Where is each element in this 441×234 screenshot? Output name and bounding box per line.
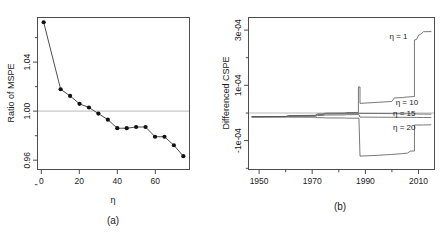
panel-b-annotation-1: η = 10 xyxy=(396,98,419,107)
panel-b-ytick-label-0: -1e-04 xyxy=(233,128,243,153)
panel-a-ytick-label-0: 0.96 xyxy=(22,152,32,169)
panel-a-data-point xyxy=(77,102,81,106)
panel-a-x-axis-label: η xyxy=(110,195,115,205)
panel-a-data-point xyxy=(143,125,147,129)
panel-b-series xyxy=(252,32,432,157)
panel-b-caption: (b) xyxy=(334,201,346,212)
panel-b-xtick-label-2: 1990 xyxy=(356,176,375,186)
panel-a-data-point xyxy=(172,143,176,147)
panel-a-data-point xyxy=(115,126,119,130)
panel-a-data-point xyxy=(134,125,138,129)
panel-b-annotation-0: η = 1 xyxy=(390,32,409,41)
panel-a-ytick-label-1: 1.00 xyxy=(22,103,32,120)
panel-a-data-point xyxy=(125,126,129,130)
panel-a-data-point xyxy=(42,20,46,24)
panel-b-plot: -1e-04 1e-04 3e-04 1950 1970 1990 2010 D… xyxy=(220,0,441,234)
panel-b-xtick-label-0: 1950 xyxy=(250,176,269,186)
panel-b-ytick-label-1: 1e-04 xyxy=(233,74,243,96)
panel-a-xtick-label-2: 40 xyxy=(113,176,123,186)
figure-container: 0.96 1.00 1.04 0 20 40 60 η Ratio of MSP… xyxy=(0,0,441,234)
panel-b: -1e-04 1e-04 3e-04 1950 1970 1990 2010 D… xyxy=(220,0,441,234)
panel-a-frame xyxy=(38,18,190,170)
panel-a-data-point xyxy=(96,111,100,115)
panel-a-data-point xyxy=(181,154,185,158)
panel-a-data-point xyxy=(68,94,72,98)
panel-b-y-ticks xyxy=(244,30,249,168)
panel-a-xtick-label-0: 0 xyxy=(39,176,44,186)
panel-a-ytick-label-2: 1.04 xyxy=(22,54,32,71)
panel-a-plot: 0.96 1.00 1.04 0 20 40 60 η Ratio of MSP… xyxy=(0,0,220,234)
panel-b-ytick-label-2: 3e-04 xyxy=(233,19,243,41)
panel-a-caption: (a) xyxy=(107,215,119,226)
panel-b-x-ticks xyxy=(259,170,418,175)
panel-a-data-point xyxy=(59,87,63,91)
panel-a-line xyxy=(44,22,184,156)
panel-a-y-axis-label: Ratio of MSPE xyxy=(6,63,16,122)
panel-b-y-axis-label: Differenced CSPE xyxy=(221,57,231,130)
panel-a-x-ticks xyxy=(41,170,155,175)
panel-b-annotation-3: η = 20 xyxy=(393,123,416,132)
panel-a-data-point xyxy=(153,135,157,139)
panel-a: 0.96 1.00 1.04 0 20 40 60 η Ratio of MSP… xyxy=(0,0,220,234)
panel-a-data-point xyxy=(106,118,110,122)
panel-b-annotation-2: η = 15 xyxy=(393,109,416,118)
panel-b-xtick-label-1: 1970 xyxy=(303,176,322,186)
panel-a-series xyxy=(42,20,186,158)
panel-a-y-ticks xyxy=(33,38,38,185)
panel-b-xtick-label-3: 2010 xyxy=(409,176,428,186)
panel-a-data-point xyxy=(87,105,91,109)
panel-a-xtick-label-3: 60 xyxy=(151,176,161,186)
panel-a-xtick-label-1: 20 xyxy=(75,176,85,186)
panel-a-data-point xyxy=(162,135,166,139)
